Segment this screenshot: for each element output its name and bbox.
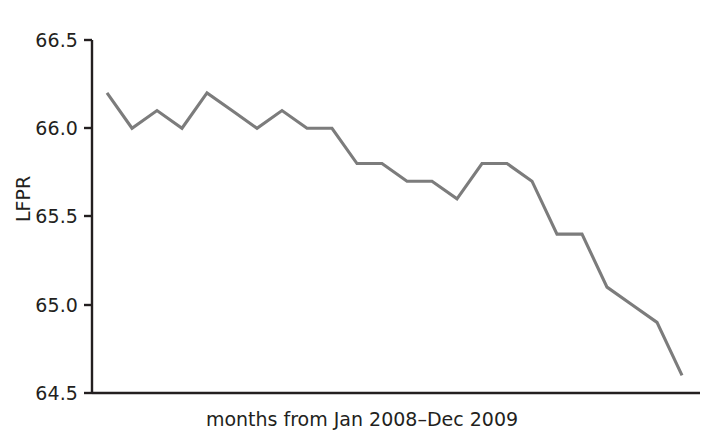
x-axis-label: months from Jan 2008–Dec 2009	[0, 408, 724, 430]
y-tick-label-1: 66.0	[20, 119, 78, 138]
plot-area	[0, 0, 724, 448]
y-tick-label-0: 66.5	[20, 31, 78, 50]
y-tick-label-4: 64.5	[20, 384, 78, 403]
lfpr-data-line	[107, 93, 682, 375]
y-tick-label-3: 65.0	[20, 296, 78, 315]
line-chart-figure: 66.5 66.0 65.5 65.0 64.5 LFPR months fro…	[0, 0, 724, 448]
y-axis-label: LFPR	[12, 154, 34, 244]
